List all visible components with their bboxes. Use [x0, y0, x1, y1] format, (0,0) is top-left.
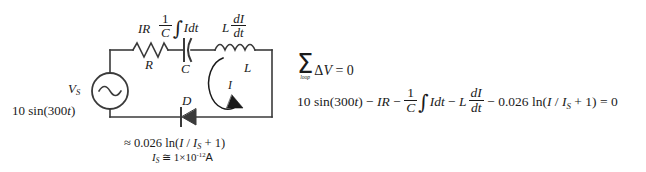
loop-current-arrowhead	[227, 95, 243, 108]
loop-current-label: I	[228, 79, 232, 91]
inductor-symbol	[215, 45, 255, 51]
circuit-figure: IR 1 C ∫Idt L dI dt R C L D I VS 10 sin(	[0, 0, 646, 172]
resistor-designator: R	[145, 58, 153, 71]
sum-symbol-group: Σ loop	[297, 54, 313, 81]
kvl-sum-equation: Σ loop ΔV = 0	[297, 54, 354, 81]
diode-designator: D	[182, 94, 191, 107]
resistor-symbol	[133, 43, 168, 57]
inductor-voltage-label: L dI dt	[222, 12, 246, 40]
source-designator: VS	[68, 82, 80, 97]
expanded-kvl-equation: 10 sin(300t) − IR − 1 C ∫Idt − L dI dt −…	[297, 86, 618, 115]
integral-sign: ∫	[172, 17, 184, 40]
capacitor-voltage-label: 1 C ∫Idt	[159, 12, 198, 40]
inductor-designator: L	[244, 61, 251, 74]
source-expression: 10 sin(300t)	[12, 104, 75, 117]
saturation-current-value: IS ≅ 1×10-12A	[152, 152, 213, 165]
resistor-voltage-label: IR	[138, 22, 150, 35]
capacitor-designator: C	[181, 62, 190, 75]
diode-triangle	[182, 109, 196, 125]
diode-drop-expression: ≈ 0.026 ln(I / IS + 1)	[124, 137, 225, 152]
integral-sign-equation: ∫	[417, 90, 430, 114]
